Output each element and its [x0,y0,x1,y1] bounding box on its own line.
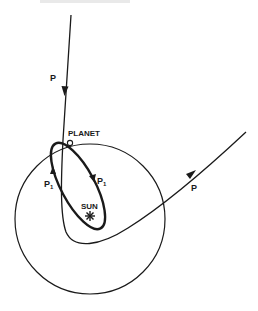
label-outgoing-p: P [191,183,197,193]
label-planet: PLANET [68,129,100,138]
planet-marker-icon [67,140,72,145]
label-sun: SUN [81,202,98,211]
label-incoming-p: P [50,73,56,83]
p1-arrow-up-icon [50,166,56,174]
orbital-capture-diagram: P PLANET P 1 P 1 SUN P [0,0,258,311]
label-p1-left-subscript: 1 [50,184,54,190]
sun-star-icon [85,211,95,221]
incoming-arrow-icon [62,86,69,96]
label-p1-right-subscript: 1 [103,181,107,187]
